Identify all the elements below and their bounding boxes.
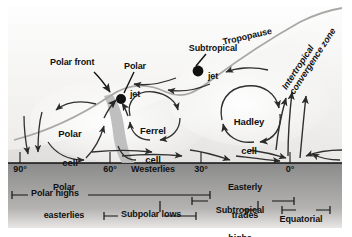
polar-jet-label-line1: Polar	[116, 62, 154, 71]
latitude-tick-90: 90°	[8, 165, 32, 174]
hadley-cell-label-line2: cell	[222, 146, 276, 156]
polar-jet-label-line2: jet	[116, 90, 154, 99]
subtropical-highs-label: Subtropical highs	[209, 188, 271, 237]
polar-front-label: Polar front	[50, 58, 94, 67]
polar-highs-label: Polar highs	[31, 189, 79, 198]
subtropical-highs-line1: Subtropical	[209, 206, 271, 215]
hadley-cell-label: Hadley cell	[222, 98, 276, 176]
westerlies-label: Westerlies	[124, 165, 182, 174]
polar-jet-label: Polar jet	[116, 44, 154, 117]
latitude-tick-60: 60°	[98, 165, 122, 174]
ferrel-cell-label-line1: Ferrel	[128, 126, 178, 136]
atmospheric-circulation-figure: Polar cell Ferrel cell Hadley cell Polar…	[0, 0, 352, 237]
equatorial-low-line1: Equatorial	[273, 215, 329, 224]
latitude-tick-0: 0°	[280, 165, 300, 174]
polar-easterlies-line2: easterlies	[34, 211, 94, 220]
latitude-tick-30: 30°	[189, 165, 213, 174]
subpolar-lows-label: Subpolar lows	[121, 210, 181, 219]
subtropical-jet-label-line2: jet	[180, 72, 246, 81]
hadley-cell-label-line1: Hadley	[222, 117, 276, 127]
polar-easterlies-label: Polar easterlies	[34, 165, 94, 237]
polar-cell-label-line1: Polar	[46, 129, 94, 139]
subtropical-highs-line2: highs	[209, 234, 271, 237]
equatorial-low-label: Equatorial low	[273, 197, 329, 237]
subtropical-jet-label-line1: Subtropical	[180, 44, 246, 53]
